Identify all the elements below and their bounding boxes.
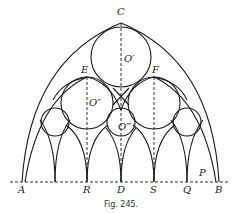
cusp-3 <box>66 125 87 182</box>
circle-small-left <box>41 108 69 136</box>
label-b: B <box>214 184 222 195</box>
label-e: E <box>80 64 89 75</box>
cusp-4 <box>87 125 108 182</box>
tracery-diagram: C E F O′ O″ O‴ A R D S Q B P Fig. 245. <box>0 0 237 213</box>
outer-arch <box>22 23 219 182</box>
label-f: F <box>151 64 160 75</box>
cusp-7 <box>133 125 154 182</box>
label-o-prime: O′ <box>124 53 135 64</box>
label-a: A <box>17 184 25 195</box>
figure-caption: Fig. 245. <box>104 200 138 209</box>
cusp-9 <box>171 120 187 182</box>
label-p: P <box>198 167 206 178</box>
circle-small-right <box>173 108 201 136</box>
cusp-8 <box>154 125 175 182</box>
label-d: D <box>116 184 125 195</box>
label-c: C <box>117 6 125 17</box>
label-o-triple-prime: O‴ <box>118 121 132 132</box>
inner-arch-right <box>154 77 216 182</box>
label-r: R <box>82 184 91 195</box>
arch-e-left <box>53 77 87 100</box>
cusp-2 <box>55 120 70 182</box>
label-q: Q <box>183 184 191 195</box>
cusp-1 <box>40 120 55 182</box>
arch-f-right <box>154 77 187 100</box>
label-s: S <box>150 184 157 195</box>
label-o-double-prime: O″ <box>89 97 101 108</box>
